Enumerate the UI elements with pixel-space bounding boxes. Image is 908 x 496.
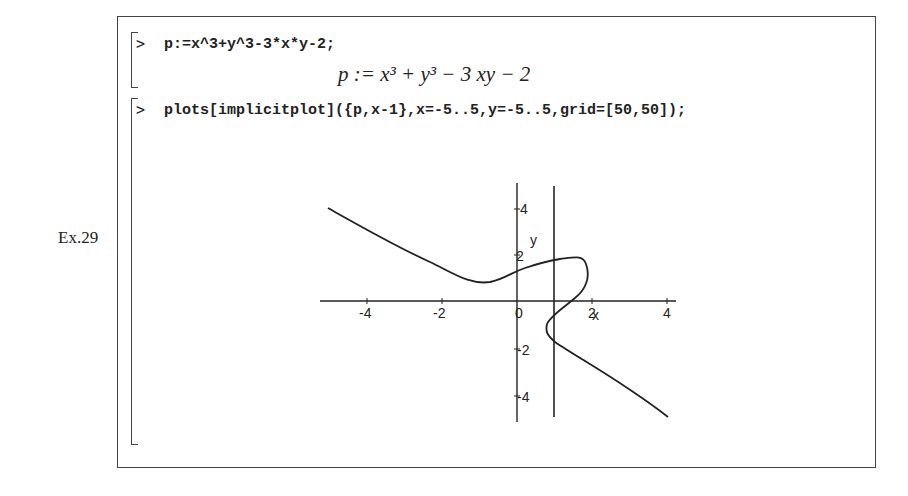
x-tick-label: -4	[359, 305, 372, 321]
x-tick-label: 4	[663, 305, 671, 321]
implicit-plot[interactable]: -4 -2 0 2 4 4 2 -2 -4 x y	[0, 0, 908, 496]
x-tick-label: 0	[515, 305, 523, 321]
y-axis-label: y	[530, 232, 537, 248]
y-tick-label: 2	[516, 248, 524, 264]
x-axis-label: x	[592, 307, 599, 323]
y-tick-label: -4	[517, 389, 530, 405]
cubic-curve	[328, 208, 668, 417]
y-tick-label: 4	[520, 201, 528, 217]
y-tick-label: -2	[517, 342, 530, 358]
x-tick-label: -2	[433, 305, 446, 321]
